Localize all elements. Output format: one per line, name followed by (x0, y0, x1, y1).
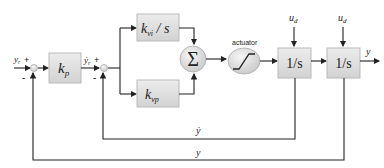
disturbance-1-label: ud (289, 12, 298, 25)
kvp-to-sum-arrow (179, 74, 194, 94)
kvi-label: kvi / s (141, 21, 170, 38)
position-feedback-label: y (195, 147, 201, 158)
sigma-label: Σ (187, 48, 199, 70)
summing-junction-2 (101, 65, 108, 72)
disturbance-2-label: ud (338, 12, 347, 25)
reference-velocity-label: ẏr (83, 55, 91, 66)
integrator-2-label: 1/s (335, 56, 351, 71)
integrator-1-label: 1/s (286, 56, 302, 71)
reference-position-label: yr (13, 54, 21, 65)
summing-junction-1 (31, 65, 38, 72)
sum2-plus-sign: + (94, 55, 99, 65)
velocity-feedback-label: ẏ (195, 125, 201, 136)
kvi-to-sum-arrow (179, 28, 194, 44)
sum1-minus-sign: - (22, 72, 25, 83)
sum1-plus-sign: + (24, 55, 29, 65)
block-diagram: yr + - kp ẏr + - kvi / s kvp Σ actuator … (0, 0, 384, 168)
output-y-label: y (365, 46, 371, 57)
sum2-minus-sign: - (93, 72, 96, 83)
position-feedback-line (33, 73, 344, 160)
actuator-label: actuator (232, 39, 258, 46)
